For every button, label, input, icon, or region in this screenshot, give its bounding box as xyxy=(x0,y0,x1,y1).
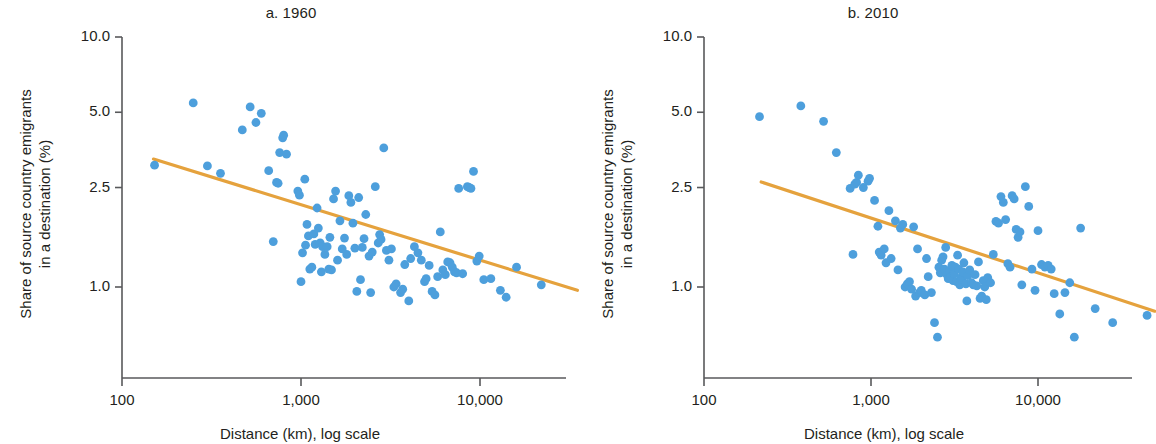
data-point xyxy=(300,175,309,184)
data-point xyxy=(1031,286,1040,295)
data-point xyxy=(865,174,874,183)
data-point xyxy=(349,219,358,228)
data-point xyxy=(933,333,942,342)
y-axis-label-line: Share of source country emigrants xyxy=(598,79,617,329)
scatter-plot-1960 xyxy=(0,0,566,444)
data-point xyxy=(406,254,415,263)
y-tick-label: 5.0 xyxy=(636,102,692,119)
data-point xyxy=(924,272,933,281)
data-point xyxy=(885,206,894,215)
data-point xyxy=(257,109,266,118)
data-point xyxy=(982,295,991,304)
data-point xyxy=(1065,278,1074,287)
data-point xyxy=(475,252,484,261)
panel-1960: a. 1960 1.02.55.010.01001,00010,000Share… xyxy=(0,0,566,444)
data-point xyxy=(870,196,879,205)
data-point xyxy=(986,278,995,287)
data-point xyxy=(327,266,336,275)
panel-2010: b. 2010 1.02.55.010.01001,00010,000Share… xyxy=(566,0,1132,444)
data-point xyxy=(360,234,369,243)
data-point xyxy=(898,220,907,229)
data-point xyxy=(486,274,495,283)
data-point xyxy=(537,280,546,289)
data-point xyxy=(298,248,307,257)
data-point xyxy=(1143,311,1152,320)
data-point xyxy=(314,224,323,233)
data-point xyxy=(358,243,367,252)
data-point xyxy=(909,222,918,231)
data-point xyxy=(398,285,407,294)
x-tick-label: 100 xyxy=(72,391,172,408)
data-point xyxy=(467,184,476,193)
data-point xyxy=(333,256,342,265)
trend-line xyxy=(761,182,1155,311)
data-point xyxy=(404,296,413,305)
data-point xyxy=(953,251,962,260)
data-point xyxy=(216,169,225,178)
data-point xyxy=(189,99,198,108)
data-point xyxy=(755,112,764,121)
data-point xyxy=(352,287,361,296)
data-point xyxy=(874,222,883,231)
data-point xyxy=(1061,288,1070,297)
data-point xyxy=(939,252,948,261)
x-tick-label: 100 xyxy=(654,391,754,408)
data-point xyxy=(321,250,330,259)
y-tick-label: 5.0 xyxy=(54,102,110,119)
data-point xyxy=(880,245,889,254)
data-point xyxy=(1001,215,1010,224)
data-point xyxy=(1047,265,1056,274)
data-point xyxy=(279,131,288,140)
y-tick-label: 10.0 xyxy=(54,27,110,44)
data-point xyxy=(342,250,351,259)
data-point xyxy=(431,290,440,299)
data-point xyxy=(1028,265,1037,274)
data-point xyxy=(496,286,505,295)
data-point xyxy=(913,245,922,254)
data-point xyxy=(307,263,316,272)
data-point xyxy=(854,171,863,180)
data-point xyxy=(371,182,380,191)
data-point xyxy=(331,187,340,196)
data-point xyxy=(150,161,159,170)
data-point xyxy=(454,184,463,193)
y-axis-label: Share of source country emigrantsin a de… xyxy=(16,79,54,329)
data-point xyxy=(999,198,1008,207)
data-point xyxy=(894,266,903,275)
x-tick-label: 10,000 xyxy=(430,391,530,408)
data-point xyxy=(441,270,450,279)
x-tick-label: 10,000 xyxy=(988,391,1088,408)
y-axis-label-line: in a destination (%) xyxy=(617,79,636,329)
data-point xyxy=(354,193,363,202)
data-point xyxy=(1050,289,1059,298)
data-point xyxy=(385,256,394,265)
data-point xyxy=(361,210,370,219)
scatter-plot-2010 xyxy=(566,0,1132,444)
data-point xyxy=(1006,263,1015,272)
data-point xyxy=(340,234,349,243)
y-tick-label: 10.0 xyxy=(636,27,692,44)
data-point xyxy=(246,103,255,112)
data-point xyxy=(252,118,261,127)
data-point xyxy=(377,235,386,244)
data-point xyxy=(379,144,388,153)
data-point xyxy=(203,162,212,171)
data-point xyxy=(368,248,377,257)
data-point xyxy=(1108,318,1117,327)
data-point xyxy=(269,237,278,246)
data-point xyxy=(295,191,304,200)
data-point xyxy=(989,250,998,259)
data-point xyxy=(325,233,334,242)
data-point xyxy=(930,318,939,327)
data-point xyxy=(1055,310,1064,319)
data-point xyxy=(458,269,467,278)
data-point xyxy=(1076,224,1085,233)
data-point xyxy=(1070,333,1079,342)
data-point xyxy=(301,241,310,250)
data-point xyxy=(323,242,332,251)
data-point xyxy=(941,243,950,252)
data-point xyxy=(329,195,338,204)
data-point xyxy=(425,261,434,270)
data-point xyxy=(974,258,983,267)
